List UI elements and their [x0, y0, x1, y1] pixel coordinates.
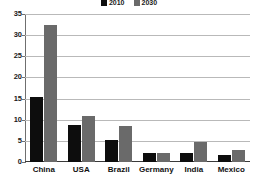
- y-axis-labels: 05101520253035: [0, 14, 22, 162]
- gridline: [25, 120, 250, 121]
- gridline: [25, 35, 250, 36]
- gridline: [25, 141, 250, 142]
- chart-legend: 2010 2030: [0, 0, 258, 8]
- bar-brazil-2010: [105, 140, 118, 162]
- y-tick-label: 20: [2, 73, 22, 81]
- y-tick-label: 35: [2, 10, 22, 18]
- bar-usa-2010: [68, 125, 81, 162]
- gridline: [25, 99, 250, 100]
- bar-china-2010: [30, 97, 43, 162]
- x-tick-label-brazil: Brazil: [100, 165, 138, 175]
- y-tick-mark: [22, 162, 25, 163]
- plot-area: [25, 14, 250, 162]
- y-tick-mark: [22, 14, 25, 15]
- gridline: [25, 14, 250, 15]
- x-axis-line: [25, 161, 250, 162]
- y-tick-label: 5: [2, 137, 22, 145]
- legend-label-2030: 2030: [142, 0, 158, 7]
- y-tick-mark: [22, 56, 25, 57]
- gridline: [25, 77, 250, 78]
- legend-swatch-2030: [134, 0, 140, 6]
- legend-label-2010: 2010: [109, 0, 125, 7]
- y-tick-mark: [22, 120, 25, 121]
- y-tick-mark: [22, 77, 25, 78]
- legend-item-2010: 2010: [101, 0, 125, 7]
- y-tick-mark: [22, 141, 25, 142]
- x-tick-label-usa: USA: [63, 165, 101, 175]
- bar-india-2010: [180, 153, 193, 162]
- bar-usa-2030: [82, 116, 95, 162]
- bar-brazil-2030: [119, 126, 132, 162]
- bar-germany-2010: [143, 153, 156, 162]
- y-tick-label: 0: [2, 158, 22, 166]
- y-tick-mark: [22, 35, 25, 36]
- gridline: [25, 56, 250, 57]
- bar-germany-2030: [157, 153, 170, 162]
- x-tick-label-india: India: [175, 165, 213, 175]
- y-tick-label: 25: [2, 52, 22, 60]
- y-tick-label: 15: [2, 95, 22, 103]
- x-tick-label-mexico: Mexico: [213, 165, 251, 175]
- bar-chart: 2010 2030 05101520253035 ChinaUSABrazilG…: [0, 0, 258, 181]
- bar-india-2030: [194, 142, 207, 162]
- bar-mexico-2010: [218, 155, 231, 162]
- x-tick-label-germany: Germany: [138, 165, 176, 175]
- bar-mexico-2030: [232, 150, 245, 162]
- x-axis-labels: ChinaUSABrazilGermanyIndiaMexico: [25, 165, 250, 179]
- y-tick-mark: [22, 99, 25, 100]
- legend-item-2030: 2030: [134, 0, 158, 7]
- y-tick-label: 30: [2, 31, 22, 39]
- y-tick-label: 10: [2, 116, 22, 124]
- x-tick-label-china: China: [25, 165, 63, 175]
- bar-china-2030: [44, 25, 57, 162]
- legend-swatch-2010: [101, 0, 107, 6]
